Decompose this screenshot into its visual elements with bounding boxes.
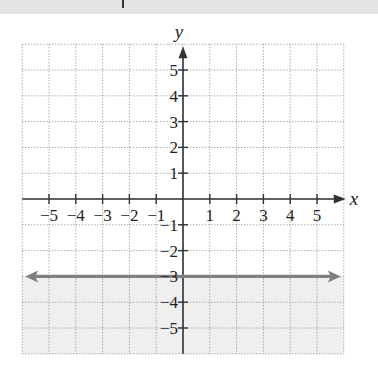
y-tick-label: 3	[170, 113, 179, 132]
y-axis-label: y	[173, 21, 184, 42]
coordinate-plane: −5−4−3−2−11234554321−1−2−3−4−5xy	[0, 0, 378, 372]
x-tick-label: −2	[120, 206, 138, 225]
y-tick-label: −2	[160, 242, 178, 261]
x-tick-label: 3	[259, 206, 268, 225]
x-tick-label: −4	[67, 206, 86, 225]
y-tick-label: −5	[160, 319, 178, 338]
y-tick-label: 1	[170, 164, 179, 183]
x-tick-label: 5	[313, 206, 322, 225]
y-axis-arrow-icon	[179, 46, 188, 58]
y-tick-label: −3	[160, 267, 178, 286]
y-tick-label: 5	[170, 61, 179, 80]
x-tick-label: 4	[286, 206, 295, 225]
y-tick-label: −4	[160, 293, 179, 312]
x-tick-label: 1	[206, 206, 215, 225]
x-tick-label: −3	[94, 206, 112, 225]
x-axis-label: x	[349, 188, 359, 209]
y-tick-label: 4	[170, 87, 179, 106]
x-tick-label: 2	[232, 206, 241, 225]
y-tick-label: 2	[170, 138, 179, 157]
y-tick-label: −1	[160, 216, 178, 235]
x-axis-arrow-icon	[334, 195, 346, 204]
x-tick-label: −5	[40, 206, 58, 225]
